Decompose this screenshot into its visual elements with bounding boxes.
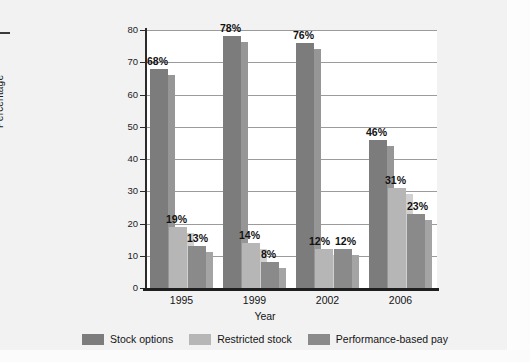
x-axis-title: Year	[0, 310, 530, 322]
bar	[296, 43, 314, 288]
y-axis-tick-label: 70	[112, 57, 138, 66]
y-axis-tick-label: 40	[112, 154, 138, 163]
legend-item: Restricted stock	[189, 333, 292, 345]
legend-swatch	[82, 334, 104, 345]
page-bottom-margin	[0, 350, 530, 362]
legend-label: Restricted stock	[217, 333, 292, 345]
bar-value-label: 8%	[261, 248, 276, 260]
bar-group	[145, 30, 218, 288]
bar	[242, 243, 260, 288]
bar-face	[169, 227, 187, 288]
y-axis-tick-label: 0	[112, 283, 138, 292]
bar-value-label: 76%	[293, 29, 314, 41]
chart-figure: Percentage 01020304050607080 68%19%13%78…	[0, 0, 530, 362]
bar-face	[188, 246, 206, 288]
x-axis-line	[143, 288, 439, 291]
bar-face	[296, 43, 314, 288]
bar-value-label: 31%	[385, 174, 406, 186]
legend-item: Stock options	[82, 333, 173, 345]
x-axis-tick-label: 2006	[366, 294, 436, 306]
y-axis-title: Percentage	[0, 75, 5, 128]
bar	[188, 246, 206, 288]
legend-label: Stock options	[110, 333, 173, 345]
legend-swatch-fill	[82, 334, 104, 345]
plot-area: 68%19%13%78%14%8%76%12%12%46%31%23%	[145, 30, 437, 288]
bar	[315, 249, 333, 288]
bar-group	[291, 30, 364, 288]
bar-value-label: 12%	[335, 235, 356, 247]
bar-face	[242, 243, 260, 288]
y-axis-tick-label: 50	[112, 122, 138, 131]
bar	[369, 140, 387, 288]
bar-value-label: 23%	[407, 200, 428, 212]
bar-face	[223, 36, 241, 288]
bar-side-shadow	[352, 255, 359, 288]
legend-swatch-fill	[308, 334, 330, 345]
bar-face	[334, 249, 352, 288]
bar-face	[407, 214, 425, 288]
bar-group	[218, 30, 291, 288]
bar	[388, 188, 406, 288]
bar	[150, 69, 168, 288]
bar	[334, 249, 352, 288]
bar-group	[364, 30, 437, 288]
y-axis-line	[145, 28, 147, 290]
y-axis-tick-label: 60	[112, 90, 138, 99]
bar-side-shadow	[425, 220, 432, 288]
bar-value-label: 13%	[187, 232, 208, 244]
page-right-margin	[507, 0, 530, 362]
y-axis-tick-label: 80	[112, 25, 138, 34]
bar-face	[369, 140, 387, 288]
legend-swatch	[308, 334, 330, 345]
legend-label: Performance-based pay	[336, 333, 448, 345]
x-axis-tick-label: 2002	[293, 294, 363, 306]
bar-face	[261, 262, 279, 288]
bar	[407, 214, 425, 288]
bar-value-label: 12%	[309, 235, 330, 247]
bar-face	[388, 188, 406, 288]
legend-swatch-fill	[189, 334, 211, 345]
bar-value-label: 78%	[220, 22, 241, 34]
bar	[169, 227, 187, 288]
y-axis-tick-label: 10	[112, 251, 138, 260]
bar-value-label: 46%	[366, 126, 387, 138]
bar	[261, 262, 279, 288]
chart-legend: Stock optionsRestricted stockPerformance…	[0, 333, 530, 345]
bar-value-label: 19%	[166, 213, 187, 225]
bar-value-label: 68%	[147, 55, 168, 67]
legend-swatch	[189, 334, 211, 345]
bar-side-shadow	[206, 252, 213, 288]
bar-face	[150, 69, 168, 288]
page-edge-dash-mark	[0, 32, 10, 34]
bar-side-shadow	[279, 268, 286, 288]
bar-value-label: 14%	[239, 229, 260, 241]
x-axis-tick-label: 1999	[220, 294, 290, 306]
legend-item: Performance-based pay	[308, 333, 448, 345]
x-axis-tick-label: 1995	[147, 294, 217, 306]
y-axis-tick-label: 30	[112, 186, 138, 195]
bar-face	[315, 249, 333, 288]
y-axis-tick-labels: 01020304050607080	[108, 0, 138, 362]
bar	[223, 36, 241, 288]
y-axis-tick-label: 20	[112, 219, 138, 228]
